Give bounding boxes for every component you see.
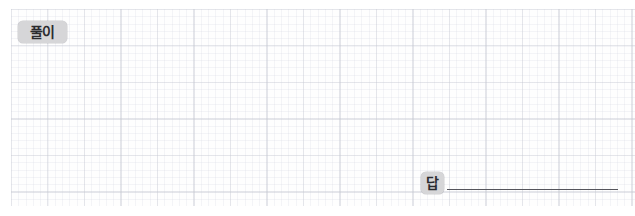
solution-badge: 풀이 (18, 21, 67, 43)
answer-badge: 답 (421, 172, 444, 194)
answer-line (447, 189, 618, 190)
answer-input-area[interactable] (447, 172, 618, 189)
solution-work-area[interactable] (18, 48, 618, 166)
worksheet-answer-area: 풀이 답 (0, 0, 635, 216)
